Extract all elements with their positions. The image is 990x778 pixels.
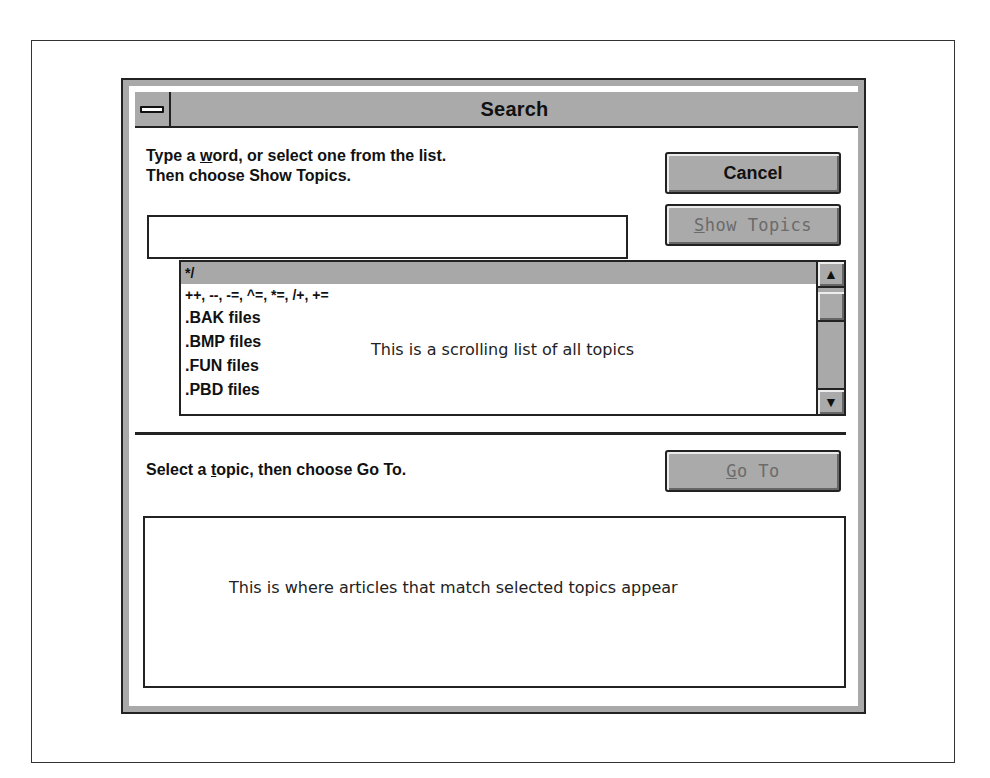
results-annotation: This is where articles that match select… — [229, 578, 678, 597]
window-title: Search — [171, 98, 858, 121]
scroll-thumb[interactable] — [818, 292, 844, 322]
search-instructions: Type a word, or select one from the list… — [146, 146, 446, 186]
accelerator-w: w — [200, 147, 212, 164]
topic-list-items: */ ++, --, -=, ^=, *=, /+, += .BAK files… — [181, 262, 816, 414]
topic-list-annotation: This is a scrolling list of all topics — [371, 340, 634, 359]
topic-list[interactable]: */ ++, --, -=, ^=, *=, /+, += .BAK files… — [179, 260, 846, 416]
title-bar[interactable]: Search — [135, 92, 858, 128]
scroll-down-button[interactable]: ▼ — [818, 388, 844, 414]
section-divider — [135, 432, 846, 435]
search-dialog: Search Type a word, or select one from t… — [121, 78, 866, 714]
vertical-scrollbar[interactable]: ▲ ▼ — [816, 262, 844, 414]
minus-bar-icon — [140, 106, 164, 113]
arrow-up-icon: ▲ — [824, 266, 838, 282]
instruction-line-2: Then choose Show Topics. — [146, 166, 446, 186]
topic-instructions: Select a topic, then choose Go To. — [146, 461, 406, 479]
list-item[interactable]: .BAK files — [181, 306, 816, 330]
arrow-down-icon: ▼ — [824, 394, 838, 410]
list-item[interactable]: .PBD files — [181, 378, 816, 402]
cancel-button[interactable]: Cancel — [665, 152, 841, 194]
list-item[interactable]: ++, --, -=, ^=, *=, /+, += — [181, 284, 816, 306]
instruction-line-1: Type a word, or select one from the list… — [146, 146, 446, 166]
go-to-button[interactable]: Go To — [665, 450, 841, 492]
search-word-input[interactable] — [147, 215, 628, 259]
matching-articles-list[interactable]: This is where articles that match select… — [143, 516, 846, 688]
show-topics-button[interactable]: Show Topics — [665, 204, 841, 246]
system-menu-button[interactable] — [135, 92, 171, 126]
scroll-up-button[interactable]: ▲ — [818, 262, 844, 288]
list-item[interactable]: */ — [181, 262, 816, 284]
